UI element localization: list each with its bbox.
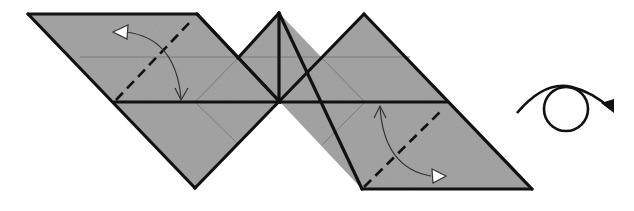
- diagram-canvas: [0, 0, 634, 211]
- turn-over-icon: [517, 86, 614, 131]
- origami-diagram: [0, 0, 634, 211]
